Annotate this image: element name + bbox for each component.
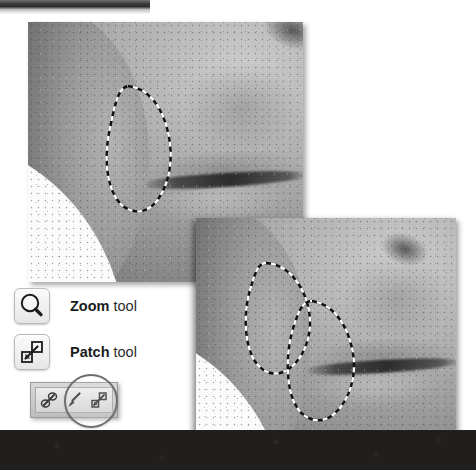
legend-label-patch-bold: Patch xyxy=(70,344,110,360)
healing-brush-icon[interactable] xyxy=(39,390,59,410)
patch-selection-destination[interactable] xyxy=(274,296,378,428)
patch-tool-icon[interactable] xyxy=(14,334,50,370)
legend-row-patch: Patch tool xyxy=(14,332,137,372)
legend-label-patch-rest: tool xyxy=(110,344,137,360)
legend-row-zoom: Zoom tool xyxy=(14,286,137,326)
figure-canvas: Zoom tool Patch tool xyxy=(0,0,476,470)
magnifying-glass-icon xyxy=(15,289,49,323)
dark-background-band xyxy=(0,430,476,470)
legend-label-zoom-bold: Zoom xyxy=(70,298,109,314)
selection-highlight-ring xyxy=(64,374,118,428)
cropped-panel-edge xyxy=(0,0,150,9)
patch-selection-source[interactable] xyxy=(86,80,196,220)
two-overlapping-squares-with-arrow-icon xyxy=(15,335,49,369)
legend-label-zoom: Zoom tool xyxy=(70,298,137,314)
tool-legend: Zoom tool Patch tool xyxy=(14,286,137,378)
photo-after[interactable] xyxy=(196,218,456,462)
legend-label-patch: Patch tool xyxy=(70,344,137,360)
legend-label-zoom-rest: tool xyxy=(109,298,136,314)
zoom-tool-icon[interactable] xyxy=(14,288,50,324)
